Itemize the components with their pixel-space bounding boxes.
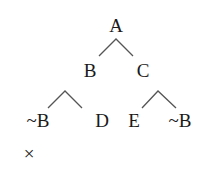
node-left-left: ~B (27, 110, 50, 131)
node-right-right: ~B (169, 110, 192, 131)
closed-branch-mark: × (24, 143, 35, 164)
node-left-right: D (95, 110, 109, 131)
node-left: B (84, 60, 97, 81)
node-root: A (109, 15, 123, 36)
edge-c-branch (142, 91, 176, 108)
tableau-tree: A B C ~B D E ~B × (0, 0, 205, 169)
edge-b-branch (48, 91, 82, 108)
node-right-left: E (128, 110, 140, 131)
edge-a-branch (99, 39, 133, 56)
node-right: C (137, 60, 150, 81)
